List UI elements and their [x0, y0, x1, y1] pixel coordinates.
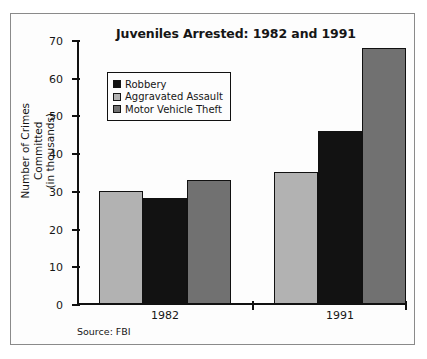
legend-label-aggravated-assault: Aggravated Assault: [125, 91, 223, 102]
bar: [274, 172, 318, 304]
legend-swatch-aggravated-assault: [113, 93, 121, 101]
legend-label-motor-vehicle-theft: Motor Vehicle Theft: [125, 104, 222, 115]
chart-legend: Robbery Aggravated Assault Motor Vehicle…: [107, 72, 231, 121]
x-axis-group-label: 1982: [151, 309, 179, 322]
bar: [362, 48, 406, 304]
bar: [318, 131, 362, 304]
legend-item-robbery: Robbery: [113, 79, 223, 90]
y-axis-tick: 0: [72, 304, 80, 306]
y-axis-tick: 10: [72, 266, 80, 268]
chart-frame: Juveniles Arrested: 1982 and 1991 Number…: [10, 13, 415, 345]
y-axis-title-line-2: Committed: [32, 76, 45, 226]
bar: [143, 198, 187, 304]
y-axis-tick: 60: [72, 78, 80, 80]
legend-swatch-robbery: [113, 80, 121, 88]
source-note: Source: FBI: [77, 326, 131, 337]
y-axis-tick-label: 0: [56, 299, 63, 312]
y-axis-tick-label: 20: [49, 223, 63, 236]
legend-swatch-motor-vehicle-theft: [113, 105, 121, 113]
y-axis-tick-label: 30: [49, 185, 63, 198]
x-axis-tick: [252, 301, 254, 310]
legend-item-motor-vehicle-theft: Motor Vehicle Theft: [113, 104, 223, 115]
y-axis-tick: 40: [72, 153, 80, 155]
x-axis-tick: [405, 301, 407, 310]
y-axis-tick-label: 70: [49, 35, 63, 48]
y-axis-tick-label: 10: [49, 261, 63, 274]
legend-item-aggravated-assault: Aggravated Assault: [113, 91, 223, 102]
chart-title: Juveniles Arrested: 1982 and 1991: [66, 26, 406, 41]
bar: [99, 191, 143, 304]
x-axis-group-label: 1991: [326, 309, 354, 322]
y-axis-tick-label: 50: [49, 110, 63, 123]
y-axis-title-line-1: Number of Crimes: [19, 76, 32, 226]
legend-label-robbery: Robbery: [125, 79, 167, 90]
bar: [187, 180, 231, 304]
y-axis-tick-label: 40: [49, 148, 63, 161]
y-axis-tick: 50: [72, 115, 80, 117]
y-axis-tick: 30: [72, 191, 80, 193]
y-axis-tick: 20: [72, 229, 80, 231]
y-axis-tick: 70: [72, 40, 80, 42]
y-axis-tick-label: 60: [49, 72, 63, 85]
